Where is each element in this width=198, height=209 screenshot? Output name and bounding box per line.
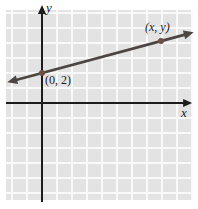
generic-point (158, 38, 164, 44)
y-axis-label: y (46, 1, 52, 15)
y-intercept-label: (0, 2) (45, 74, 71, 87)
coordinate-plane-figure: y x (0, 2) (x, y) (0, 0, 198, 209)
x-axis-label: x (181, 106, 187, 120)
generic-point-label: (x, y) (145, 21, 170, 34)
